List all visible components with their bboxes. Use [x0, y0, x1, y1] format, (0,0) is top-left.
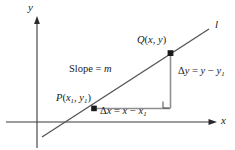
comma-separator: , — [74, 92, 77, 103]
close-paren: ) — [163, 34, 167, 45]
close-paren: ) — [87, 92, 91, 103]
delta-x-term1: x — [123, 105, 128, 116]
delta-y-term1: y — [201, 65, 206, 76]
delta-glyph: Δ — [100, 105, 107, 116]
line-label-l: l — [215, 19, 218, 30]
point-q-name: Q — [137, 34, 145, 45]
point-p-label: P(x1, y1) — [56, 93, 91, 105]
y-axis-label: y — [28, 2, 33, 13]
delta-x-annotation: Δx = x − x1 — [100, 106, 147, 118]
point-q-marker — [168, 50, 174, 56]
delta-x-var: x — [107, 105, 112, 116]
equals-sign: = — [114, 105, 120, 116]
delta-glyph: Δ — [178, 65, 185, 76]
minus-sign: − — [130, 105, 136, 116]
slope-diagram-figure: y x l Q(x, y) P(x1, y1) Slope = m Δy = y… — [0, 0, 235, 150]
slope-variable-m: m — [104, 63, 112, 74]
line-l — [42, 29, 209, 137]
delta-y-annotation: Δy = y − y1 — [178, 66, 225, 78]
x-axis-arrowhead-icon — [209, 119, 218, 125]
delta-y-var: y — [185, 65, 190, 76]
right-angle-marker-icon — [163, 102, 170, 109]
minus-sign: − — [208, 65, 214, 76]
delta-y-term2-subscript: 1 — [221, 70, 224, 77]
equals-sign: = — [192, 65, 198, 76]
point-q-label: Q(x, y) — [137, 35, 166, 46]
y-axis-arrowhead-icon — [34, 16, 40, 24]
slope-word: Slope — [69, 63, 93, 74]
x-axis-label: x — [221, 115, 226, 126]
delta-x-term2-subscript: 1 — [143, 110, 146, 117]
y-axis — [34, 16, 40, 148]
equals-sign: = — [96, 63, 102, 74]
slope-annotation: Slope = m — [69, 64, 112, 75]
point-p-marker — [91, 106, 97, 112]
comma-separator: , — [153, 34, 156, 45]
x-axis — [6, 119, 217, 125]
